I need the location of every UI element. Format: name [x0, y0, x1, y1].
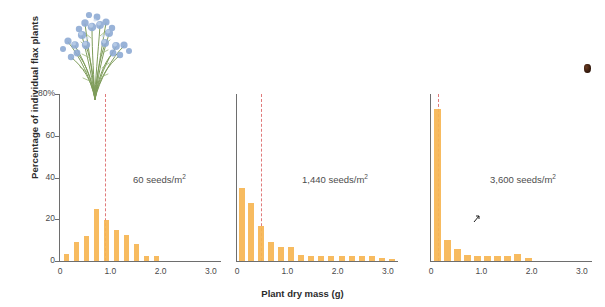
y-tick-label-0: 0: [50, 255, 55, 265]
y-tick-label-40: 40: [46, 172, 55, 182]
x-tick-label-2: 2.0: [155, 266, 167, 276]
bar: [484, 256, 491, 261]
x-tick-label-3: 3.0: [576, 266, 588, 276]
y-tick-label-20: 20: [46, 213, 55, 223]
image-speck-artifact: [584, 64, 591, 73]
panel-label-superscript: 2: [552, 173, 556, 180]
bar: [258, 226, 264, 262]
bar: [379, 258, 385, 261]
panel-label-3600-seeds: 3,600 seeds/m2: [490, 173, 556, 185]
y-tick-label-60: 60: [46, 130, 55, 140]
panel-label-superscript: 2: [364, 173, 368, 180]
bar: [434, 109, 441, 262]
x-tick-label-0: 0: [58, 266, 63, 276]
bar: [94, 209, 99, 261]
x-axis-line: [59, 261, 221, 262]
x-axis-line: [430, 261, 592, 262]
bar: [124, 235, 129, 261]
x-tick-label-1: 1.0: [281, 266, 293, 276]
x-tick-label-3: 3.0: [382, 266, 394, 276]
bar: [239, 188, 245, 261]
arrow-mark-icon: [473, 214, 481, 223]
bar: [64, 254, 69, 261]
x-tick-label-0: 0: [429, 266, 434, 276]
flax-biomass-histogram-figure: Percentage of individual flax plants 80%…: [0, 0, 605, 307]
bar: [504, 256, 511, 261]
bar: [74, 242, 79, 261]
x-tick-label-1: 1.0: [104, 266, 116, 276]
bar: [514, 254, 521, 261]
bar: [144, 256, 149, 261]
panel-label-text: 60 seeds/m: [133, 174, 182, 185]
bar: [268, 242, 274, 261]
panel-60-seeds: 80% 60 40 20 0: [59, 94, 231, 264]
panel-label-text: 1,440 seeds/m: [302, 174, 364, 185]
flax-plant-illustration: [42, 2, 148, 100]
panel-label-text: 3,600 seeds/m: [490, 174, 552, 185]
bar: [464, 255, 471, 261]
panel-1440-seeds: 0 1.0 2.0 3.0 1,440 seeds/m2: [236, 94, 408, 264]
x-tick-label-2: 2.0: [332, 266, 344, 276]
panel-label-1440-seeds: 1,440 seeds/m2: [302, 173, 368, 185]
bar: [454, 249, 461, 262]
bar: [278, 247, 284, 261]
bar: [154, 256, 159, 261]
x-tick-label-0: 0: [235, 266, 240, 276]
bar: [359, 256, 365, 261]
bar: [288, 247, 294, 261]
panel-3600-seeds: 0 1.0 2.0 3.0 3,600 seeds/m2: [430, 94, 602, 264]
bar: [84, 236, 89, 261]
x-tick-label-1: 1.0: [475, 266, 487, 276]
x-tick-label-2: 2.0: [526, 266, 538, 276]
y-tick-label-80: 80%: [38, 88, 55, 98]
x-tick-label-3: 3.0: [205, 266, 217, 276]
bar: [339, 256, 345, 261]
bar: [114, 230, 119, 261]
panel-label-60-seeds: 60 seeds/m2: [133, 173, 186, 185]
bar: [308, 256, 314, 261]
bar: [104, 220, 109, 261]
panel-label-superscript: 2: [182, 173, 186, 180]
bar: [444, 240, 451, 261]
bar: [494, 256, 501, 261]
bar: [328, 256, 334, 261]
bar: [389, 259, 395, 262]
bar: [134, 244, 139, 261]
bar: [369, 256, 375, 261]
bar: [474, 256, 481, 261]
bar: [525, 258, 532, 261]
x-axis-line: [236, 261, 398, 262]
x-axis-title: Plant dry mass (g): [0, 288, 605, 299]
bar: [248, 203, 254, 262]
bar: [349, 256, 355, 261]
bar: [298, 255, 304, 261]
bar: [318, 256, 324, 261]
